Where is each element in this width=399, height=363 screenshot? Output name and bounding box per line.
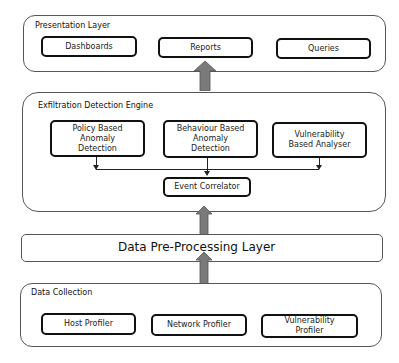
- up-arrow-icon: [194, 61, 216, 91]
- presentation-layer-title: Presentation Layer: [35, 21, 110, 30]
- detection-engine-title: Exfiltration Detection Engine: [38, 101, 153, 110]
- network-profiler-box: Network Profiler: [151, 314, 247, 336]
- reports-box: Reports: [158, 37, 253, 58]
- data-collection-title: Data Collection: [31, 288, 92, 297]
- dashboards-box: Dashboards: [41, 36, 137, 57]
- behaviour-anomaly-detection-box: Behaviour Based Anomaly Detection: [163, 120, 258, 158]
- up-arrow-icon: [196, 206, 212, 236]
- vulnerability-analyser-box: Vulnerability Based Analyser: [272, 122, 367, 158]
- policy-anomaly-detection-box: Policy Based Anomaly Detection: [50, 120, 145, 157]
- vulnerability-profiler-box: Vulnerability Profiler: [261, 314, 358, 338]
- host-profiler-box: Host Profiler: [41, 313, 136, 335]
- arrowhead-icon: [204, 171, 210, 176]
- up-arrow-icon: [196, 252, 212, 286]
- queries-box: Queries: [276, 38, 371, 59]
- event-correlator-box: Event Correlator: [163, 177, 251, 197]
